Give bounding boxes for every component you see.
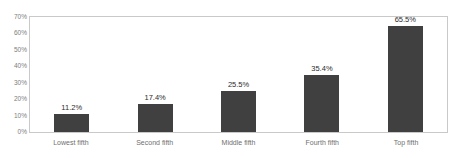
chart-title: 1979-2005 — [0, 0, 461, 2]
y-axis-tick-label: 60% — [0, 29, 27, 36]
y-axis-tick-label: 0% — [0, 128, 27, 135]
bar-slot: 11.2% — [30, 17, 113, 132]
bar-slot: 35.4% — [280, 17, 363, 132]
plot-area: 11.2% 17.4% 25.5% 35.4% 65.5% — [29, 16, 448, 133]
bar-value-label: 25.5% — [197, 80, 280, 89]
bar-slot: 25.5% — [197, 17, 280, 132]
x-axis-category-label: Lowest fifth — [29, 138, 113, 152]
y-axis-tick-label: 50% — [0, 46, 27, 53]
bar-chart: 1979-2005 70% 60% 50% 40% 30% 20% 10% 0%… — [0, 0, 461, 158]
bar-value-label: 35.4% — [280, 64, 363, 73]
y-axis-tick-label: 40% — [0, 62, 27, 69]
x-axis-category-label: Fourth fifth — [280, 138, 364, 152]
bar[interactable] — [304, 75, 339, 132]
bar[interactable] — [54, 114, 89, 132]
bars-layer: 11.2% 17.4% 25.5% 35.4% 65.5% — [30, 17, 447, 132]
x-axis-category-label: Top fifth — [364, 138, 448, 152]
bar-value-label: 11.2% — [30, 103, 113, 112]
bar-value-label: 17.4% — [113, 93, 196, 102]
bar-slot: 17.4% — [113, 17, 196, 132]
bar[interactable] — [221, 91, 256, 132]
y-axis-tick-label: 20% — [0, 95, 27, 102]
bar-slot: 65.5% — [364, 17, 447, 132]
y-axis-tick-label: 10% — [0, 112, 27, 119]
bar[interactable] — [138, 104, 173, 132]
y-axis-tick-label: 70% — [0, 13, 27, 20]
y-axis-tick-label: 30% — [0, 79, 27, 86]
x-axis: Lowest fifth Second fifth Middle fifth F… — [29, 138, 448, 152]
bar[interactable] — [388, 26, 423, 132]
x-axis-category-label: Middle fifth — [197, 138, 281, 152]
bar-value-label: 65.5% — [364, 15, 447, 24]
x-axis-category-label: Second fifth — [113, 138, 197, 152]
y-axis: 70% 60% 50% 40% 30% 20% 10% 0% — [0, 16, 27, 133]
